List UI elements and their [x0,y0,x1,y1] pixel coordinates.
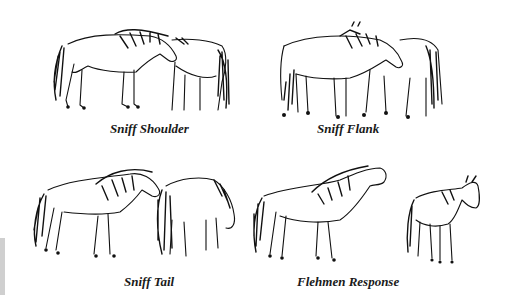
panel-sniff-tail: Sniff Tail [0,150,250,295]
panel-sniff-shoulder: Sniff Shoulder [0,0,250,140]
horses-sniff-shoulder-illustration [0,0,250,140]
caption-sniff-shoulder: Sniff Shoulder [110,121,189,137]
caption-sniff-tail: Sniff Tail [124,274,174,290]
horses-sniff-flank-illustration [250,0,506,140]
panel-sniff-flank: Sniff Flank [250,0,506,140]
panel-flehmen-response: Flehmen Response [240,150,506,295]
caption-flehmen-response: Flehmen Response [297,274,399,290]
caption-sniff-flank: Sniff Flank [317,121,379,137]
